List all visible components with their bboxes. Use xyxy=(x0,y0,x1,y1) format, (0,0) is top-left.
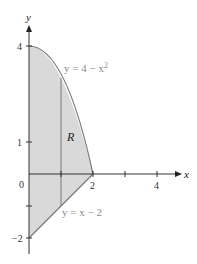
lower-curve-label: y = x − 2 xyxy=(62,206,102,218)
region-diagram: 0 2 4 4 1 −2 x y y = 4 − x2 y = x − 2 R xyxy=(0,0,197,264)
x-tick-label-0: 0 xyxy=(19,179,24,190)
y-axis-arrow-icon xyxy=(26,25,32,32)
x-axis-arrow-icon xyxy=(175,171,182,177)
x-tick-label-4: 4 xyxy=(154,180,159,191)
y-tick-label-1: 1 xyxy=(17,137,22,148)
upper-curve-label: y = 4 − x2 xyxy=(64,61,108,74)
region-label: R xyxy=(66,130,75,144)
y-tick-label-4: 4 xyxy=(17,41,22,52)
x-tick-label-2: 2 xyxy=(90,180,95,191)
x-axis-label: x xyxy=(183,168,189,180)
y-axis-label: y xyxy=(25,11,31,23)
y-tick-label-neg2: −2 xyxy=(12,233,23,244)
